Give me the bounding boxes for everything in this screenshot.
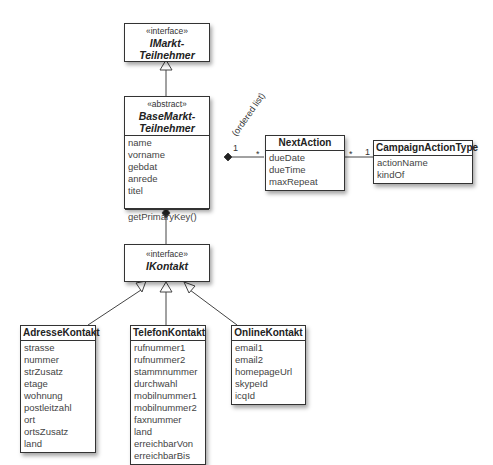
- attribute: strasse: [24, 342, 92, 354]
- stereotype-label: «interface»: [127, 248, 207, 260]
- attribute-list: actionName kindOf: [374, 156, 472, 183]
- class-adressekontakt[interactable]: AdresseKontakt strasse nummer strZusatz …: [20, 325, 96, 453]
- attribute: rufnummer1: [134, 342, 202, 354]
- attribute: postleitzahl: [24, 402, 92, 414]
- class-header: OnlineKontakt: [232, 326, 305, 341]
- class-name: IKontakt: [127, 260, 207, 272]
- class-name: Teilnehmer: [127, 49, 207, 61]
- attribute: homepageUrl: [235, 366, 302, 378]
- class-header: CampaignActionType: [374, 141, 472, 156]
- class-header: NextAction: [266, 136, 344, 151]
- attribute: email2: [235, 354, 302, 366]
- attribute: nummer: [24, 354, 92, 366]
- attribute: actionName: [377, 157, 469, 169]
- attribute-list: email1 email2 homepageUrl skypeId icqId: [232, 341, 305, 404]
- attribute: stammnummer: [134, 366, 202, 378]
- attribute: durchwahl: [134, 378, 202, 390]
- attribute: ortsZusatz: [24, 426, 92, 438]
- class-nextaction[interactable]: NextAction dueDate dueTime maxRepeat: [265, 135, 345, 191]
- attribute-list: rufnummer1 rufnummer2 stammnummer durchw…: [131, 341, 205, 464]
- attribute-list: name vorname gebdat anrede titel: [125, 136, 209, 199]
- class-header: «abstract» BaseMarkt- Teilnehmer: [125, 97, 209, 136]
- attribute: strZusatz: [24, 366, 92, 378]
- attribute: name: [128, 137, 206, 149]
- attribute: mobilnummer2: [134, 402, 202, 414]
- attribute: titel: [128, 185, 206, 197]
- class-telefonkontakt[interactable]: TelefonKontakt rufnummer1 rufnummer2 sta…: [130, 325, 206, 465]
- attribute-list: dueDate dueTime maxRepeat: [266, 151, 344, 190]
- attribute: skypeId: [235, 378, 302, 390]
- multiplicity-label: 1: [233, 143, 238, 153]
- class-onlinekontakt[interactable]: OnlineKontakt email1 email2 homepageUrl …: [231, 325, 306, 405]
- attribute: icqId: [235, 390, 302, 402]
- multiplicity-label: 1: [365, 147, 370, 157]
- attribute: dueTime: [269, 164, 341, 176]
- class-header: «interface» IKontakt: [125, 245, 209, 273]
- class-header: TelefonKontakt: [131, 326, 205, 341]
- attribute: faxnummer: [134, 414, 202, 426]
- class-campaignactiontype[interactable]: CampaignActionType actionName kindOf: [373, 140, 473, 184]
- class-header: AdresseKontakt: [21, 326, 95, 341]
- attribute-list: strasse nummer strZusatz etage wohnung p…: [21, 341, 95, 452]
- attribute: erreichbarVon: [134, 438, 202, 450]
- attribute: rufnummer2: [134, 354, 202, 366]
- stereotype-label: «interface»: [127, 25, 207, 37]
- attribute: kindOf: [377, 169, 469, 181]
- multiplicity-label: *: [349, 149, 353, 159]
- attribute: anrede: [128, 173, 206, 185]
- class-name: OnlineKontakt: [234, 327, 303, 339]
- multiplicity-label: *: [256, 149, 260, 159]
- class-basemarkt-teilnehmer[interactable]: «abstract» BaseMarkt- Teilnehmer name vo…: [124, 96, 210, 209]
- attribute: maxRepeat: [269, 176, 341, 188]
- attribute: mobilnummer1: [134, 390, 202, 402]
- class-name: CampaignActionType: [376, 142, 470, 154]
- stereotype-label: «abstract»: [127, 98, 207, 110]
- class-name: IMarkt-: [127, 37, 207, 49]
- attribute: ort: [24, 414, 92, 426]
- class-name: TelefonKontakt: [133, 327, 203, 339]
- class-name: NextAction: [268, 137, 342, 149]
- attribute: dueDate: [269, 152, 341, 164]
- attribute: etage: [24, 378, 92, 390]
- class-imarkt-teilnehmer[interactable]: «interface» IMarkt- Teilnehmer: [124, 23, 210, 62]
- class-name: BaseMarkt-: [127, 110, 207, 122]
- attribute: vorname: [128, 149, 206, 161]
- operation-list: getPrimaryKey(): [125, 209, 209, 225]
- class-name: AdresseKontakt: [23, 327, 93, 339]
- operation: getPrimaryKey(): [128, 211, 206, 223]
- attribute: erreichbarBis: [134, 450, 202, 462]
- attribute: wohnung: [24, 390, 92, 402]
- class-header: «interface» IMarkt- Teilnehmer: [125, 24, 209, 62]
- attribute: land: [134, 426, 202, 438]
- class-ikontakt[interactable]: «interface» IKontakt: [124, 244, 210, 282]
- attribute: email1: [235, 342, 302, 354]
- attribute: gebdat: [128, 161, 206, 173]
- attribute: land: [24, 438, 92, 450]
- class-name: Teilnehmer: [127, 122, 207, 134]
